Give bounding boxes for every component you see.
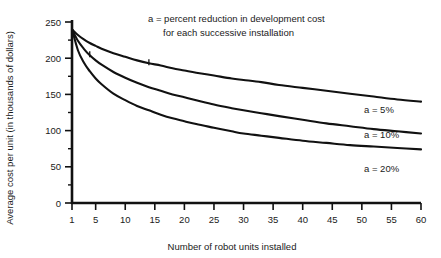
x-tick-label-15: 15 — [150, 214, 161, 225]
series-label-a10: a = 10% — [364, 129, 400, 140]
x-axis-ticks: 151015202530354045505560 — [69, 203, 426, 225]
x-tick-label-5: 5 — [93, 214, 98, 225]
curve-a-10- — [72, 29, 421, 133]
robot-cost-learning-curve-chart: Average cost per unit (in thousands of d… — [0, 0, 441, 258]
y-tick-label-200: 200 — [45, 53, 61, 64]
x-axis-title: Number of robot units installed — [168, 241, 297, 252]
annotation-line-1: a = percent reduction in development cos… — [148, 13, 325, 24]
x-tick-label-20: 20 — [179, 214, 190, 225]
y-axis-ticks: 050100150200250 — [45, 17, 72, 209]
x-tick-label-30: 30 — [238, 214, 249, 225]
y-tick-label-0: 0 — [56, 198, 61, 209]
annotation-line-2: for each successive installation — [163, 27, 294, 38]
x-tick-label-50: 50 — [357, 214, 368, 225]
y-axis-title: Average cost per unit (in thousands of d… — [4, 31, 15, 225]
curve-a-5- — [72, 29, 421, 101]
chart-figure: Average cost per unit (in thousands of d… — [0, 0, 441, 258]
x-tick-label-1: 1 — [69, 214, 74, 225]
x-tick-label-45: 45 — [327, 214, 338, 225]
y-tick-label-50: 50 — [50, 161, 61, 172]
x-tick-label-25: 25 — [209, 214, 220, 225]
x-tick-label-60: 60 — [416, 214, 427, 225]
y-tick-label-100: 100 — [45, 125, 61, 136]
y-tick-label-150: 150 — [45, 89, 61, 100]
x-tick-label-40: 40 — [297, 214, 308, 225]
y-tick-label-250: 250 — [45, 17, 61, 28]
series-label-a20: a = 20% — [364, 163, 400, 174]
x-tick-label-35: 35 — [268, 214, 279, 225]
x-tick-label-55: 55 — [386, 214, 397, 225]
series-label-a5: a = 5% — [364, 104, 394, 115]
x-tick-label-10: 10 — [120, 214, 131, 225]
